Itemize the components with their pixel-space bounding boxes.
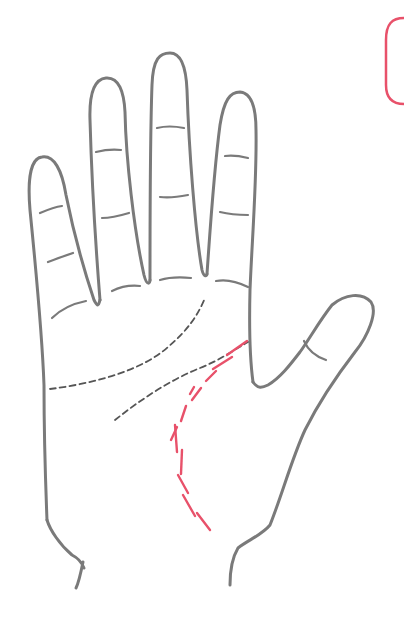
ring-finger	[90, 78, 150, 300]
hand-outline	[29, 53, 373, 588]
finger-creases	[40, 127, 326, 361]
pinky-finger	[29, 157, 100, 520]
highlight-badge-edge	[386, 18, 404, 104]
middle-finger	[150, 53, 207, 280]
index-finger	[207, 92, 256, 382]
life-line	[171, 341, 247, 530]
wrist-left	[47, 520, 84, 588]
palm-diagram	[0, 0, 404, 638]
thumb	[230, 296, 373, 585]
